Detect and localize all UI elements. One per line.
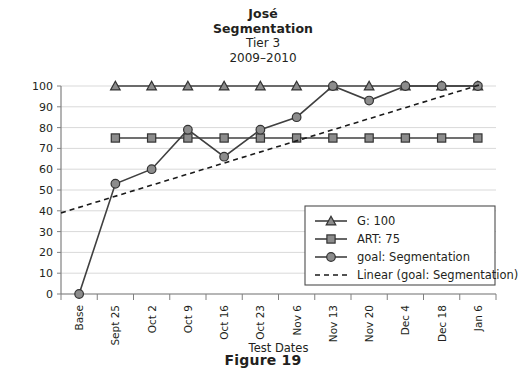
square-marker (329, 134, 337, 142)
x-tick-label: Oct 9 (182, 305, 194, 333)
legend-item-label: Linear (goal: Segmentation) (357, 268, 518, 282)
y-tick-label: 0 (46, 288, 53, 301)
y-tick-label: 60 (39, 163, 53, 176)
y-tick-label: 40 (39, 205, 53, 218)
y-tick-label: 100 (32, 80, 53, 93)
legend-item-label: G: 100 (357, 214, 395, 228)
circle-marker (75, 290, 84, 299)
y-tick-label: 80 (39, 122, 53, 135)
x-tick-label: Oct 23 (254, 305, 266, 340)
figure-19-chart: José Segmentation Tier 3 2009–2010 01020… (0, 0, 526, 377)
circle-marker (147, 165, 156, 174)
square-marker (401, 134, 409, 142)
circle-marker (256, 125, 265, 134)
square-marker (438, 134, 446, 142)
y-axis-ticks: 0102030405060708090100 (32, 80, 61, 301)
x-tick-label: Oct 2 (146, 305, 158, 333)
circle-marker (184, 125, 193, 134)
square-marker (256, 134, 264, 142)
x-tick-label: Nov 6 (291, 305, 303, 336)
x-tick-label: Dec 18 (436, 305, 448, 342)
circle-marker (329, 82, 338, 91)
y-tick-label: 50 (39, 184, 53, 197)
x-axis-ticks (61, 294, 496, 300)
circle-marker (401, 82, 410, 91)
x-axis-labels: BaseSept 25Oct 2Oct 9Oct 16Oct 23Nov 6No… (73, 305, 484, 346)
y-tick-label: 90 (39, 101, 53, 114)
circle-marker (327, 253, 336, 262)
circle-marker (437, 82, 446, 91)
y-tick-label: 70 (39, 142, 53, 155)
y-tick-label: 20 (39, 246, 53, 259)
x-tick-label: Sept 25 (109, 305, 121, 346)
chart-plot-area: 0102030405060708090100 BaseSept 25Oct 2O… (0, 0, 526, 377)
x-tick-label: Nov 13 (327, 305, 339, 342)
square-marker (474, 134, 482, 142)
chart-legend: G: 100ART: 75goal: SegmentationLinear (g… (305, 206, 518, 285)
y-tick-label: 30 (39, 226, 53, 239)
square-marker (327, 235, 335, 243)
square-marker (148, 134, 156, 142)
square-marker (111, 134, 119, 142)
x-tick-label: Oct 16 (218, 305, 230, 340)
x-tick-label: Base (73, 305, 85, 331)
circle-marker (365, 96, 374, 105)
y-tick-label: 10 (39, 267, 53, 280)
square-marker (365, 134, 373, 142)
square-marker (184, 134, 192, 142)
legend-item-label: ART: 75 (357, 232, 400, 246)
x-tick-label: Dec 4 (399, 305, 411, 336)
figure-caption: Figure 19 (0, 352, 526, 368)
x-tick-label: Jan 6 (472, 305, 484, 333)
square-marker (220, 134, 228, 142)
x-tick-label: Nov 20 (363, 305, 375, 342)
legend-item-label: goal: Segmentation (357, 250, 470, 264)
circle-marker (292, 113, 301, 122)
circle-marker (220, 152, 229, 161)
circle-marker (111, 179, 120, 188)
